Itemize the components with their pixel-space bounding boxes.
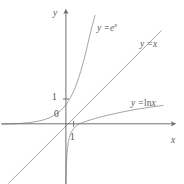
curve-label-linear-rhs: x: [153, 39, 157, 49]
curve-label-logarithm-lhs: y =: [131, 98, 144, 108]
function-graph-figure: y =ex y =x y =lnx y x 1 1 0: [0, 0, 184, 184]
y-axis-label: y: [53, 9, 57, 19]
curve-y-equals-e-to-the-x: [2, 15, 96, 124]
x-axis-tick-label-1: 1: [70, 133, 75, 143]
curve-label-linear: y =x: [140, 40, 157, 50]
curve-label-exponential-exponent: x: [114, 21, 117, 28]
curve-label-logarithm: y =lnx: [131, 99, 156, 109]
curve-label-exponential: y =ex: [97, 22, 117, 34]
origin-label: 0: [54, 110, 59, 120]
x-axis-label: x: [171, 136, 175, 146]
curve-label-linear-lhs: y =: [140, 39, 153, 49]
y-axis-tick-label-1: 1: [52, 93, 57, 103]
curve-label-exponential-lhs: y =: [97, 23, 110, 33]
curve-label-logarithm-arg: x: [151, 98, 155, 108]
plot-canvas: [0, 0, 184, 184]
curve-y-equals-ln-x: [66, 105, 164, 184]
